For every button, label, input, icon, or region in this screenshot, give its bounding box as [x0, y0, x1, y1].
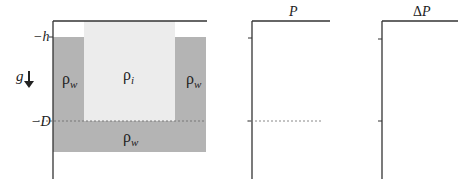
- middle-title-P: P: [288, 4, 298, 19]
- gravity-label: g: [16, 68, 24, 84]
- label-minus-h: −h: [33, 29, 49, 44]
- left-panel: −h −D g ρw ρi ρw ρw: [16, 21, 207, 179]
- label-minus-D: −D: [31, 114, 51, 129]
- right-panel-delta-pressure: ΔP: [378, 4, 458, 179]
- hydrostatic-pressure-diagram: −h −D g ρw ρi ρw ρw P ΔP: [0, 0, 474, 191]
- down-arrow-icon: [24, 71, 34, 88]
- right-title-delta-P: ΔP: [413, 4, 431, 19]
- middle-panel-pressure: P: [247, 4, 330, 179]
